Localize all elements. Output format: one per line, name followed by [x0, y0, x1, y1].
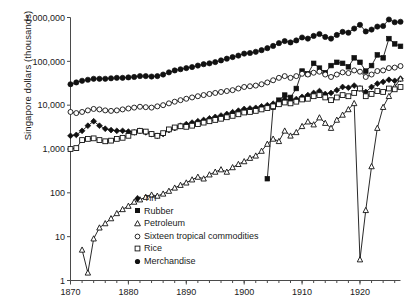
series-merchandise [68, 17, 403, 87]
svg-text:100,000: 100,000 [32, 57, 65, 67]
svg-text:1,000,000: 1,000,000 [25, 13, 65, 23]
legend-item-label: Rubber [144, 205, 174, 218]
filled-circle-icon [130, 257, 144, 266]
legend-item-tin: Tin [130, 192, 259, 205]
legend-item-label: Rice [144, 242, 162, 255]
chart-figure: Singapore dollars (thousands) 1101001,00… [0, 0, 413, 308]
chart-legend: TinRubberPetroleumSixteen tropical commo… [130, 192, 259, 268]
series-sixteen-tropical-commodities [68, 64, 403, 116]
legend-item-label: Petroleum [144, 217, 185, 230]
legend-item-sixteen-tropical-commodities: Sixteen tropical commodities [130, 230, 259, 243]
legend-item-label: Sixteen tropical commodities [144, 230, 259, 243]
svg-text:1910: 1910 [292, 287, 312, 297]
svg-text:1870: 1870 [60, 287, 80, 297]
svg-text:10,000: 10,000 [37, 100, 65, 110]
svg-text:1900: 1900 [234, 287, 254, 297]
open-triangle-icon [130, 219, 144, 228]
legend-item-label: Tin [144, 192, 156, 205]
legend-item-label: Merchandise [144, 255, 196, 268]
series-tin [68, 76, 404, 139]
legend-item-merchandise: Merchandise [130, 255, 259, 268]
svg-text:1: 1 [60, 276, 65, 286]
svg-text:1920: 1920 [350, 287, 370, 297]
svg-text:1880: 1880 [118, 287, 138, 297]
filled-square-icon [130, 206, 144, 215]
svg-text:1,000: 1,000 [42, 144, 65, 154]
open-circle-icon [130, 232, 144, 241]
svg-text:1890: 1890 [176, 287, 196, 297]
legend-item-petroleum: Petroleum [130, 217, 259, 230]
filled-diamond-icon [130, 194, 144, 203]
svg-text:10: 10 [55, 232, 65, 242]
svg-text:100: 100 [50, 188, 65, 198]
series-rice [68, 85, 403, 152]
legend-item-rubber: Rubber [130, 205, 259, 218]
legend-item-rice: Rice [130, 242, 259, 255]
open-square-icon [130, 244, 144, 253]
